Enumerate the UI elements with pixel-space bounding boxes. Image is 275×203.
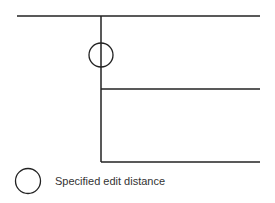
legend-circle-icon [16,169,41,194]
tree-diagram [0,0,275,203]
legend-label: Specified edit distance [55,175,165,187]
